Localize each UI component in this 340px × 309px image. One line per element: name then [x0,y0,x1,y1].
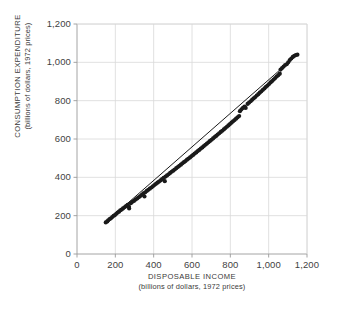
y-axis-title: CONSUMPTION EXPENDITURE (billions of dol… [13,0,35,171]
y-axis-title-sub: (billions of dollars, 1972 prices) [23,0,33,171]
y-tick-label: 1,000 [47,57,71,67]
y-tick-label: 800 [55,96,71,106]
y-tick-label: 200 [55,211,71,221]
y-tick-label: 1,200 [47,19,71,29]
x-axis-title-sub: (billions of dollars, 1972 prices) [77,282,307,292]
y-axis-title-main: CONSUMPTION EXPENDITURE [13,0,23,171]
x-axis-title: DISPOSABLE INCOME (billions of dollars, … [77,272,307,291]
y-tick-label: 400 [55,172,71,182]
scatter-chart: 02004006008001,0001,200 02004006008001,0… [0,0,340,309]
x-axis-title-main: DISPOSABLE INCOME [77,272,307,282]
x-tick-label: 1,200 [282,260,332,270]
y-tick-label: 600 [55,134,71,144]
y-tick-label: 0 [66,249,71,259]
